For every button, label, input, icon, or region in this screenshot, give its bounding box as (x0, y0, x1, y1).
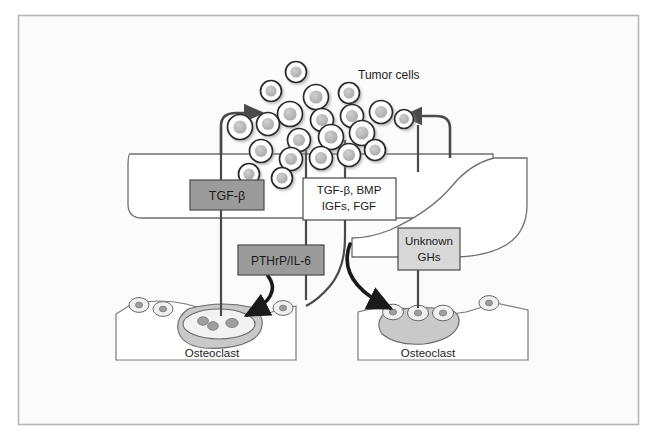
tumor-cell (339, 83, 360, 104)
tumor-cell (250, 140, 273, 163)
osteoclast-right-label: Osteoclast (401, 347, 456, 359)
box-growth-factors-line2: IGFs, FGF (322, 200, 376, 212)
diagram-canvas: Osteoclast Osteoclast (0, 0, 658, 440)
tumor-cell (278, 102, 303, 127)
tumor-cells-label: Tumor cells (358, 68, 420, 82)
box-growth-factors[interactable]: TGF-β, BMP IGFs, FGF (303, 178, 396, 220)
box-tgf-beta[interactable]: TGF-β (190, 180, 264, 210)
tumor-cell (257, 113, 280, 136)
tumor-cell (272, 168, 293, 189)
box-pthrp-il6-label: PTHrP/IL-6 (251, 254, 311, 268)
box-unknown-ghs-line2: GHs (418, 251, 441, 263)
tumor-cell (304, 85, 329, 110)
tumor-cell (261, 81, 282, 102)
figure-root: Osteoclast Osteoclast (0, 0, 658, 440)
tumor-cell (365, 140, 386, 161)
tumor-cell (310, 147, 333, 170)
tumor-cell (286, 62, 307, 83)
box-unknown-ghs-line1: Unknown (405, 235, 453, 247)
box-pthrp-il6[interactable]: PTHrP/IL-6 (238, 245, 324, 275)
tumor-cell (228, 115, 253, 140)
osteoclast-left-cell (183, 309, 255, 339)
tumor-cell (338, 144, 361, 167)
box-growth-factors-line1: TGF-β, BMP (317, 184, 382, 196)
box-tgf-beta-label: TGF-β (209, 189, 245, 203)
tumor-cell (395, 110, 414, 129)
tumor-cell (370, 101, 393, 124)
box-unknown-ghs[interactable]: Unknown GHs (398, 228, 460, 270)
osteoclast-left-label: Osteoclast (185, 347, 240, 359)
